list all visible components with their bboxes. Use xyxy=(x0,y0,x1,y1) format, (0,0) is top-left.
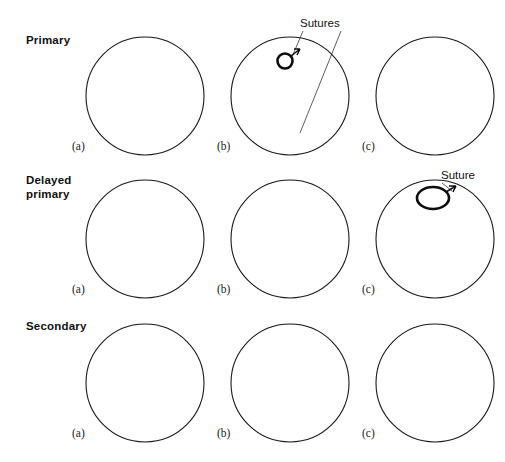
suture-callout-label: Suture xyxy=(441,169,475,181)
panel-label-secondary-b: (b) xyxy=(217,427,231,440)
row-label-secondary: Secondary xyxy=(26,320,87,332)
sutures-callout-label: Sutures xyxy=(300,17,340,29)
panel-circle xyxy=(86,37,204,155)
panel-label-secondary-c: (c) xyxy=(362,427,375,440)
panel-circle xyxy=(376,37,494,155)
panel-circle xyxy=(86,180,204,298)
panel-label-primary-b: (b) xyxy=(217,140,231,153)
panel-circle xyxy=(376,180,494,298)
panel-label-secondary-a: (a) xyxy=(72,427,85,440)
row-label-delayed-primary-line2: primary xyxy=(26,188,70,200)
panel-label-delayed-a: (a) xyxy=(72,283,85,296)
panel-label-primary-c: (c) xyxy=(362,140,375,153)
panel-circle xyxy=(231,180,349,298)
panel-label-delayed-b: (b) xyxy=(217,283,231,296)
row-label-primary: Primary xyxy=(26,34,71,46)
panel-circle xyxy=(231,324,349,442)
panel-circle xyxy=(376,324,494,442)
figure-canvas: Primary (a) xyxy=(0,0,505,462)
panel-circle xyxy=(86,324,204,442)
panel-label-primary-a: (a) xyxy=(72,140,85,153)
wound-healing-figure: Primary (a) xyxy=(0,0,505,462)
row-label-delayed-primary-line1: Delayed xyxy=(26,174,72,186)
panel-label-delayed-c: (c) xyxy=(362,283,375,296)
